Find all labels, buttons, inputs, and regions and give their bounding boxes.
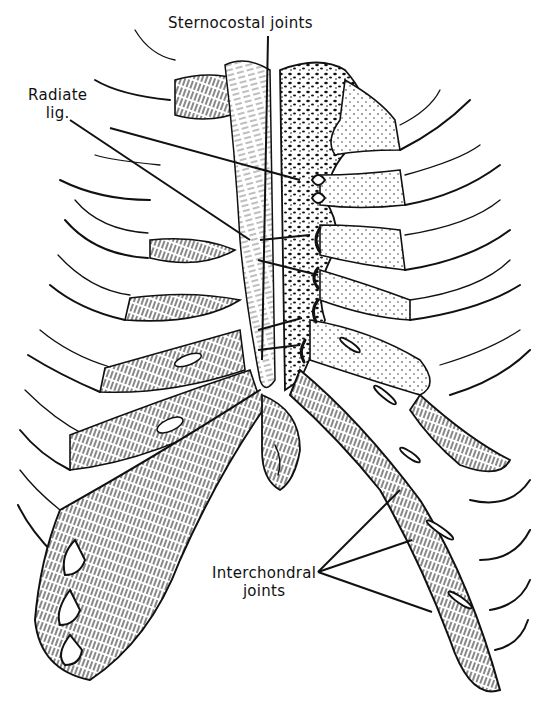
label-interchondral-joints: Interchondral joints <box>212 564 316 600</box>
label-interchondral-line2: joints <box>212 582 316 600</box>
label-radiate-line1: Radiate <box>28 86 87 104</box>
label-radiate-line2: lig. <box>28 104 87 122</box>
label-radiate-ligament: Radiate lig. <box>28 86 87 122</box>
label-interchondral-line1: Interchondral <box>212 564 316 582</box>
label-sternocostal-joints: Sternocostal joints <box>168 14 313 32</box>
